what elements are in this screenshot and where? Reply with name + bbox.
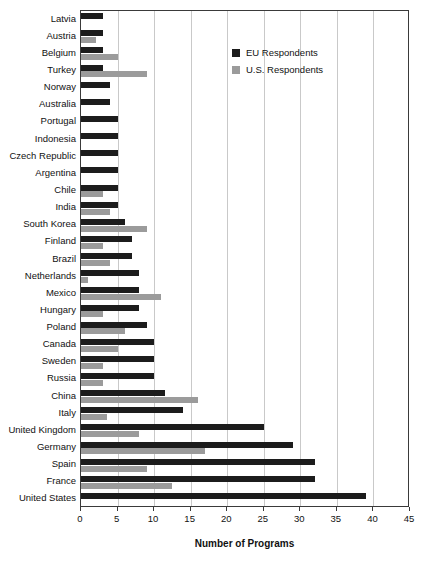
y-label-canada: Canada: [0, 339, 76, 349]
bar-row: [81, 131, 408, 148]
y-label-czech-republic: Czech Republic: [0, 151, 76, 161]
y-label-austria: Austria: [0, 31, 76, 41]
bar-spain-eu: [81, 459, 315, 465]
legend-item: EU Respondents: [232, 48, 323, 58]
bar-spain-us: [81, 466, 147, 472]
y-label-belgium: Belgium: [0, 48, 76, 58]
bar-united-kingdom-eu: [81, 424, 264, 430]
x-tick-label-20: 20: [221, 513, 232, 524]
y-label-france: France: [0, 476, 76, 486]
bar-row: [81, 11, 408, 28]
bar-row: [81, 422, 408, 439]
x-tick-mark-10: [153, 507, 154, 511]
bar-row: [81, 234, 408, 251]
bar-argentina-eu: [81, 167, 118, 173]
bar-netherlands-us: [81, 277, 88, 283]
bar-turkey-us: [81, 71, 147, 77]
bar-belgium-us: [81, 54, 118, 60]
x-tick-mark-30: [299, 507, 300, 511]
y-label-finland: Finland: [0, 236, 76, 246]
bar-norway-eu: [81, 82, 110, 88]
bar-row: [81, 388, 408, 405]
bar-row: [81, 371, 408, 388]
bar-south-korea-eu: [81, 219, 125, 225]
x-tick-label-0: 0: [77, 513, 82, 524]
y-label-netherlands: Netherlands: [0, 271, 76, 281]
legend-label: U.S. Respondents: [246, 65, 323, 75]
bar-sweden-eu: [81, 356, 154, 362]
bar-india-us: [81, 209, 110, 215]
bar-row: [81, 457, 408, 474]
bar-hungary-eu: [81, 305, 139, 311]
bar-austria-eu: [81, 30, 103, 36]
x-tick-label-30: 30: [294, 513, 305, 524]
x-axis-ticks: 051015202530354045: [80, 507, 409, 529]
bar-poland-eu: [81, 322, 147, 328]
y-label-hungary: Hungary: [0, 305, 76, 315]
bar-row: [81, 114, 408, 131]
y-label-india: India: [0, 202, 76, 212]
y-label-italy: Italy: [0, 408, 76, 418]
legend: EU RespondentsU.S. Respondents: [232, 48, 323, 82]
bar-row: [81, 268, 408, 285]
x-tick-mark-45: [409, 507, 410, 511]
bar-mexico-eu: [81, 287, 139, 293]
bar-austria-us: [81, 37, 96, 43]
bar-sweden-us: [81, 363, 103, 369]
x-axis-title: Number of Programs: [80, 538, 409, 549]
bar-mexico-us: [81, 294, 161, 300]
bar-china-us: [81, 397, 198, 403]
bar-finland-us: [81, 243, 103, 249]
bar-poland-us: [81, 328, 125, 334]
bar-germany-eu: [81, 442, 293, 448]
x-tick-mark-15: [190, 507, 191, 511]
y-label-latvia: Latvia: [0, 14, 76, 24]
bar-portugal-eu: [81, 116, 118, 122]
bar-netherlands-eu: [81, 270, 139, 276]
bar-row: [81, 165, 408, 182]
bar-row: [81, 337, 408, 354]
y-label-united-kingdom: United Kingdom: [0, 425, 76, 435]
bar-brazil-us: [81, 260, 110, 266]
bar-chile-us: [81, 191, 103, 197]
bar-row: [81, 97, 408, 114]
y-label-portugal: Portugal: [0, 116, 76, 126]
bar-germany-us: [81, 448, 205, 454]
x-tick-label-15: 15: [184, 513, 195, 524]
bar-latvia-eu: [81, 13, 103, 19]
x-tick-label-35: 35: [331, 513, 342, 524]
x-tick-mark-5: [117, 507, 118, 511]
x-tick-label-45: 45: [404, 513, 415, 524]
bar-row: [81, 405, 408, 422]
bar-row: [81, 148, 408, 165]
bar-row: [81, 302, 408, 319]
bar-row: [81, 251, 408, 268]
bar-row: [81, 491, 408, 508]
y-axis-category-labels: LatviaAustriaBelgiumTurkeyNorwayAustrali…: [0, 10, 76, 507]
x-tick-label-10: 10: [148, 513, 159, 524]
bar-russia-eu: [81, 373, 154, 379]
y-label-spain: Spain: [0, 459, 76, 469]
bar-row: [81, 28, 408, 45]
x-tick-mark-25: [263, 507, 264, 511]
bar-indonesia-eu: [81, 133, 118, 139]
bar-australia-eu: [81, 99, 110, 105]
y-label-argentina: Argentina: [0, 168, 76, 178]
bar-row: [81, 474, 408, 491]
bar-row: [81, 285, 408, 302]
bar-belgium-eu: [81, 47, 103, 53]
y-label-mexico: Mexico: [0, 288, 76, 298]
bar-turkey-eu: [81, 65, 103, 71]
y-label-south-korea: South Korea: [0, 219, 76, 229]
y-label-united-states: United States: [0, 493, 76, 503]
bar-row: [81, 319, 408, 336]
legend-item: U.S. Respondents: [232, 65, 323, 75]
bar-row: [81, 217, 408, 234]
bar-finland-eu: [81, 236, 132, 242]
y-label-chile: Chile: [0, 185, 76, 195]
bar-united-states-eu: [81, 493, 366, 499]
y-label-brazil: Brazil: [0, 254, 76, 264]
x-tick-label-40: 40: [367, 513, 378, 524]
bar-italy-us: [81, 414, 107, 420]
bar-row: [81, 439, 408, 456]
